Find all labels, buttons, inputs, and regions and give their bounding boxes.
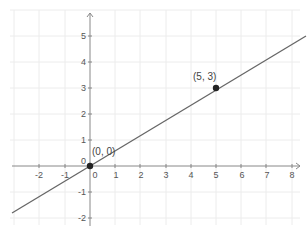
x-tick-label: 2 (138, 170, 143, 180)
x-tick-label: -1 (61, 170, 69, 180)
y-tick-label: 5 (81, 31, 86, 41)
grid (10, 10, 300, 225)
origin-y-label: 0 (81, 156, 86, 166)
x-tick-label: 3 (163, 170, 168, 180)
x-tick-label: 5 (213, 170, 218, 180)
y-tick-label: -2 (78, 213, 86, 223)
x-tick-label: 4 (188, 170, 193, 180)
y-tick-label: 1 (81, 135, 86, 145)
x-tick-label: 7 (264, 170, 269, 180)
y-tick-labels: -2 -1 1 2 3 4 5 0 (78, 31, 86, 223)
line-y-equals-0.6x[interactable] (12, 36, 306, 213)
point-5-3[interactable] (213, 85, 219, 91)
y-tick-label: 3 (81, 83, 86, 93)
y-tick-label: -1 (78, 187, 86, 197)
graph-canvas: -2 -1 0 1 2 3 4 5 6 7 8 -2 -1 1 2 3 4 5 … (0, 0, 307, 229)
x-tick-label: 8 (289, 170, 294, 180)
x-tick-label: 1 (113, 170, 118, 180)
x-tick-label: -2 (35, 170, 43, 180)
y-tick-label: 4 (81, 57, 86, 67)
point-5-3-label: (5, 3) (193, 71, 216, 82)
y-tick-label: 2 (81, 109, 86, 119)
x-tick-label: 6 (239, 170, 244, 180)
x-tick-label: 0 (92, 170, 97, 180)
point-origin[interactable] (87, 163, 93, 169)
point-origin-label: (0, 0) (92, 146, 115, 157)
axes (12, 13, 300, 226)
